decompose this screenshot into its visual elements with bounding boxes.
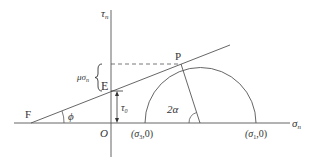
point-f-label: F [25, 108, 31, 120]
sigma1-point-label: (σ1,0) [245, 128, 267, 140]
sigma-n-axis-label: σn [292, 117, 301, 131]
mohr-circle-diagram: τn σn O P E F μσn τ0 ϕ 2α (σ3,0) (σ1,0) [0, 0, 312, 167]
point-p-label: P [175, 50, 181, 62]
mohr-semicircle [145, 68, 256, 123]
phi-arc [62, 111, 64, 123]
point-e-label: E [101, 79, 108, 93]
radius-line [181, 64, 200, 123]
tau-n-axis-label: τn [101, 7, 109, 21]
failure-envelope-line [31, 45, 230, 123]
two-alpha-label: 2α [167, 103, 179, 115]
tau0-arrowhead-down [115, 118, 119, 123]
phi-label: ϕ [68, 110, 74, 122]
mu-sigma-label: μσn [76, 72, 89, 83]
tau0-arrowhead-up [115, 91, 119, 96]
sigma3-point-label: (σ3,0) [131, 128, 153, 140]
two-alpha-arc [189, 113, 197, 124]
origin-label: O [100, 127, 108, 139]
tau0-label: τ0 [121, 102, 128, 114]
